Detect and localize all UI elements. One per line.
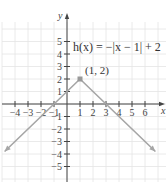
y-tick-label: −1 <box>51 111 62 122</box>
axes <box>2 13 165 182</box>
y-tick-label: 1 <box>57 86 62 97</box>
x-axis-label: x <box>160 105 166 116</box>
y-tick-label: −5 <box>51 161 62 172</box>
x-tick-label: −3 <box>23 107 34 118</box>
y-tick-label: 2 <box>57 74 62 85</box>
x-tick-label: 2 <box>91 107 96 118</box>
y-tick-label: −2 <box>51 124 62 135</box>
x-tick-label: 1 <box>78 107 83 118</box>
y-tick-label: 4 <box>57 49 62 60</box>
x-tick-label: 3 <box>104 107 109 118</box>
x-tick-label: 5 <box>130 107 135 118</box>
x-tick-label: −4 <box>10 107 21 118</box>
equation-label: h(x) = −|x − 1| + 2 <box>73 40 161 54</box>
x-tick-label: 6 <box>143 107 148 118</box>
vertex-label: (1, 2) <box>85 64 109 77</box>
y-tick-label: −4 <box>51 149 62 160</box>
function-graph: −4−3−2−1123456−5−4−3−2−112345 h(x) = −|x… <box>0 0 168 182</box>
y-tick-label: −3 <box>51 136 62 147</box>
vertex-point <box>78 77 83 82</box>
y-tick-label: 5 <box>57 36 62 47</box>
y-axis-label: y <box>57 10 63 21</box>
y-tick-label: 3 <box>57 61 62 72</box>
